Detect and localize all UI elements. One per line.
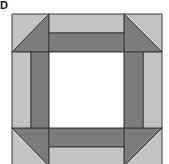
band-top-dark [49, 33, 124, 52]
band-right-dark [124, 52, 143, 128]
band-top-light [49, 14, 124, 33]
quilt-block-diagram [0, 0, 169, 164]
band-bottom-dark [49, 128, 124, 147]
band-right-light [143, 52, 162, 128]
band-left-light [12, 52, 31, 128]
band-bottom-light [49, 147, 124, 164]
band-left-dark [31, 52, 49, 128]
center-square [49, 52, 124, 128]
